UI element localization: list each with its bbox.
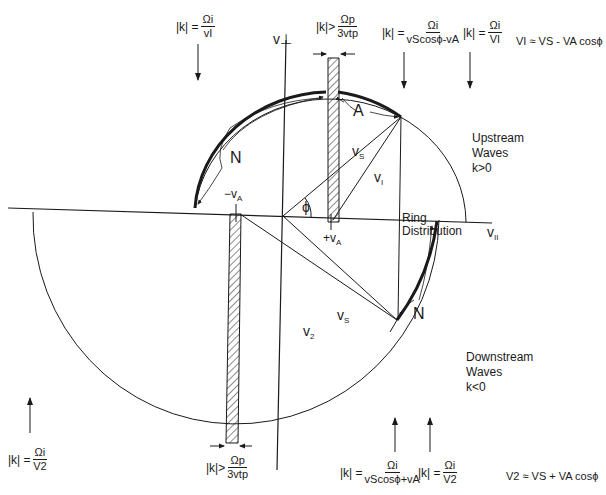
v1-label: vI	[374, 170, 383, 187]
v-perp-axis	[277, 40, 286, 470]
v2-label: v2	[303, 324, 314, 341]
v2-vector	[240, 214, 397, 320]
eq-v1-approx: VI ≈ VS - VA cosϕ	[516, 36, 603, 47]
eq-bottom-right1: |k| = ΩivScosϕ+vA	[340, 460, 420, 485]
eq-bottom-bar: |k|> Ωp3vtp	[206, 455, 248, 480]
v1-vector	[333, 117, 401, 220]
upper-resonance-bar	[328, 58, 339, 222]
upper-N-arc-heavy	[195, 92, 326, 208]
vs-lower-label: vS	[337, 308, 349, 325]
eq-top-bar: |k|> Ωp3vtp	[316, 14, 358, 39]
upper-N-label: N	[230, 150, 242, 166]
phi-label: ϕ	[302, 200, 310, 214]
downstream-waves-label: DownstreamWavesk<0	[466, 350, 533, 395]
minus-vA-label: −vA	[224, 188, 242, 203]
eq-top-right1: |k| = ΩivScosϕ-vA	[382, 20, 459, 45]
eq-top-left: |k| = ΩivI	[176, 14, 215, 39]
eq-bottom-left: |k| = ΩiV2	[8, 447, 47, 472]
upper-A-label: A	[353, 103, 364, 119]
eq-v2-approx: V2 ≈ VS + VA cosϕ	[506, 471, 598, 482]
v-perp-label: v⊥	[273, 32, 292, 46]
plus-vA-label: +vA	[323, 232, 341, 247]
vs-upper-label: vS	[352, 144, 364, 161]
vs-upper-vector	[283, 117, 401, 216]
v-parallel-label: vII	[487, 225, 498, 242]
lower-N-label: N	[413, 306, 425, 322]
lower-resonance-bar	[226, 214, 241, 443]
upstream-waves-label: UpstreamWavesk>0	[472, 131, 524, 176]
ring-distribution-label: RingDistribution	[402, 211, 462, 239]
ring-vertical	[398, 117, 401, 320]
eq-top-right2: |k| = ΩiVI	[463, 20, 502, 45]
diagram-canvas	[0, 0, 606, 495]
eq-bottom-right2: |k| = ΩiV2	[418, 460, 457, 485]
